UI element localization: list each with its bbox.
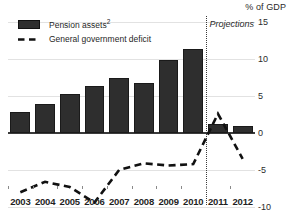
legend-footnote-marker: 2 — [107, 18, 111, 25]
legend-dashed-line-icon — [18, 35, 40, 44]
x-axis-tick — [181, 186, 182, 189]
x-axis-label-2008: 2008 — [134, 196, 154, 207]
legend-label-pension-assets: Pension assets2 — [49, 18, 110, 30]
x-axis-tick — [33, 186, 34, 189]
x-axis-tick — [230, 186, 231, 189]
x-axis-label-2005: 2005 — [60, 196, 80, 207]
x-axis-tick — [107, 186, 108, 189]
x-axis-tick — [8, 186, 9, 189]
x-axis-label-2011: 2011 — [208, 196, 228, 207]
legend-item-government-deficit: General government deficit — [18, 33, 151, 45]
x-axis-label-2007: 2007 — [109, 196, 129, 207]
x-axis-tick — [132, 186, 133, 189]
x-axis-label-2012: 2012 — [232, 196, 252, 207]
x-axis-label-2003: 2003 — [10, 196, 30, 207]
x-axis-tick — [57, 186, 58, 189]
x-axis-label-2006: 2006 — [84, 196, 104, 207]
x-axis-tick — [82, 186, 83, 189]
chart-container: % of GDP 151050-5-10 Projections 2003200… — [0, 0, 288, 219]
legend-item-pension-assets: Pension assets2 — [18, 18, 151, 30]
x-axis-tick — [206, 186, 207, 189]
x-axis-label-2010: 2010 — [183, 196, 203, 207]
chart-legend: Pension assets2 General government defic… — [18, 18, 151, 48]
projections-label: Projections — [210, 19, 255, 29]
legend-bar-swatch-icon — [18, 20, 40, 29]
projections-divider-line — [206, 16, 207, 205]
x-axis-label-2009: 2009 — [158, 196, 178, 207]
legend-label-government-deficit: General government deficit — [49, 34, 151, 44]
x-axis-tick — [156, 186, 157, 189]
x-axis-label-2004: 2004 — [35, 196, 55, 207]
